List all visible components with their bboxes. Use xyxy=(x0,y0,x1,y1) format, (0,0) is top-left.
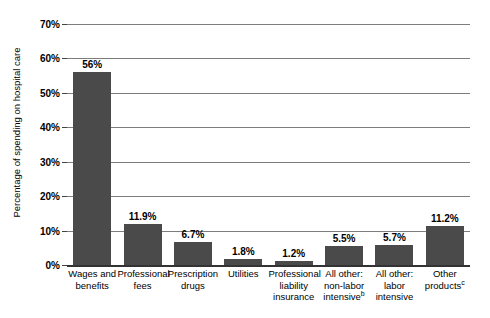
x-axis-line xyxy=(67,265,470,267)
bar-value-label: 5.7% xyxy=(383,232,406,243)
bar[interactable] xyxy=(224,259,262,265)
bar-value-label: 6.7% xyxy=(182,229,205,240)
x-axis-category-labels: Wages andbenefitsProfessionalfeesPrescri… xyxy=(67,268,470,316)
bar[interactable] xyxy=(375,245,413,265)
category-label: Professionalliabilityinsurance xyxy=(269,268,319,303)
bar-value-label: 56% xyxy=(82,59,102,70)
bar-value-label: 1.2% xyxy=(282,248,305,259)
bar-slot: 11.9% xyxy=(117,24,167,265)
bar-value-label: 5.5% xyxy=(333,233,356,244)
category-label: Professionalfees xyxy=(117,268,167,291)
y-axis-tick-labels: 70%60%50%40%30%20%10%0% xyxy=(22,0,60,318)
bar-slot: 11.2% xyxy=(420,24,470,265)
category-label: All other:non-laborintensiveb xyxy=(319,268,369,303)
footnote-marker: b xyxy=(361,290,365,297)
y-tick-label-40: 40% xyxy=(22,122,60,133)
y-tick-label-30: 30% xyxy=(22,156,60,167)
bar[interactable] xyxy=(325,246,363,265)
bar[interactable] xyxy=(73,72,111,265)
bar[interactable] xyxy=(174,242,212,265)
bar-slot: 5.5% xyxy=(319,24,369,265)
bar-slot: 1.8% xyxy=(218,24,268,265)
y-tick-label-70: 70% xyxy=(22,19,60,30)
y-tick-label-10: 10% xyxy=(22,225,60,236)
bar[interactable] xyxy=(426,226,464,265)
category-label: Wages andbenefits xyxy=(67,268,117,291)
y-tick-label-60: 60% xyxy=(22,53,60,64)
bar-slot: 5.7% xyxy=(369,24,419,265)
bar-value-label: 11.2% xyxy=(431,213,459,224)
bar[interactable] xyxy=(124,224,162,265)
bars-layer: 56%11.9%6.7%1.8%1.2%5.5%5.7%11.2% xyxy=(67,24,470,265)
bar-chart: Percentage of spending on hospital care … xyxy=(0,0,490,318)
footnote-marker: c xyxy=(461,278,465,285)
category-label: Prescriptiondrugs xyxy=(168,268,218,291)
y-tick-label-20: 20% xyxy=(22,191,60,202)
category-label: Otherproductsc xyxy=(420,268,470,291)
bar[interactable] xyxy=(275,261,313,265)
category-label: All other:laborintensive xyxy=(369,268,419,303)
y-tick-label-50: 50% xyxy=(22,87,60,98)
category-label: Utilities xyxy=(218,268,268,280)
bar-slot: 56% xyxy=(67,24,117,265)
y-tick-label-0: 0% xyxy=(22,260,60,271)
bar-slot: 6.7% xyxy=(168,24,218,265)
bar-slot: 1.2% xyxy=(269,24,319,265)
bar-value-label: 11.9% xyxy=(129,211,157,222)
bar-value-label: 1.8% xyxy=(232,246,255,257)
